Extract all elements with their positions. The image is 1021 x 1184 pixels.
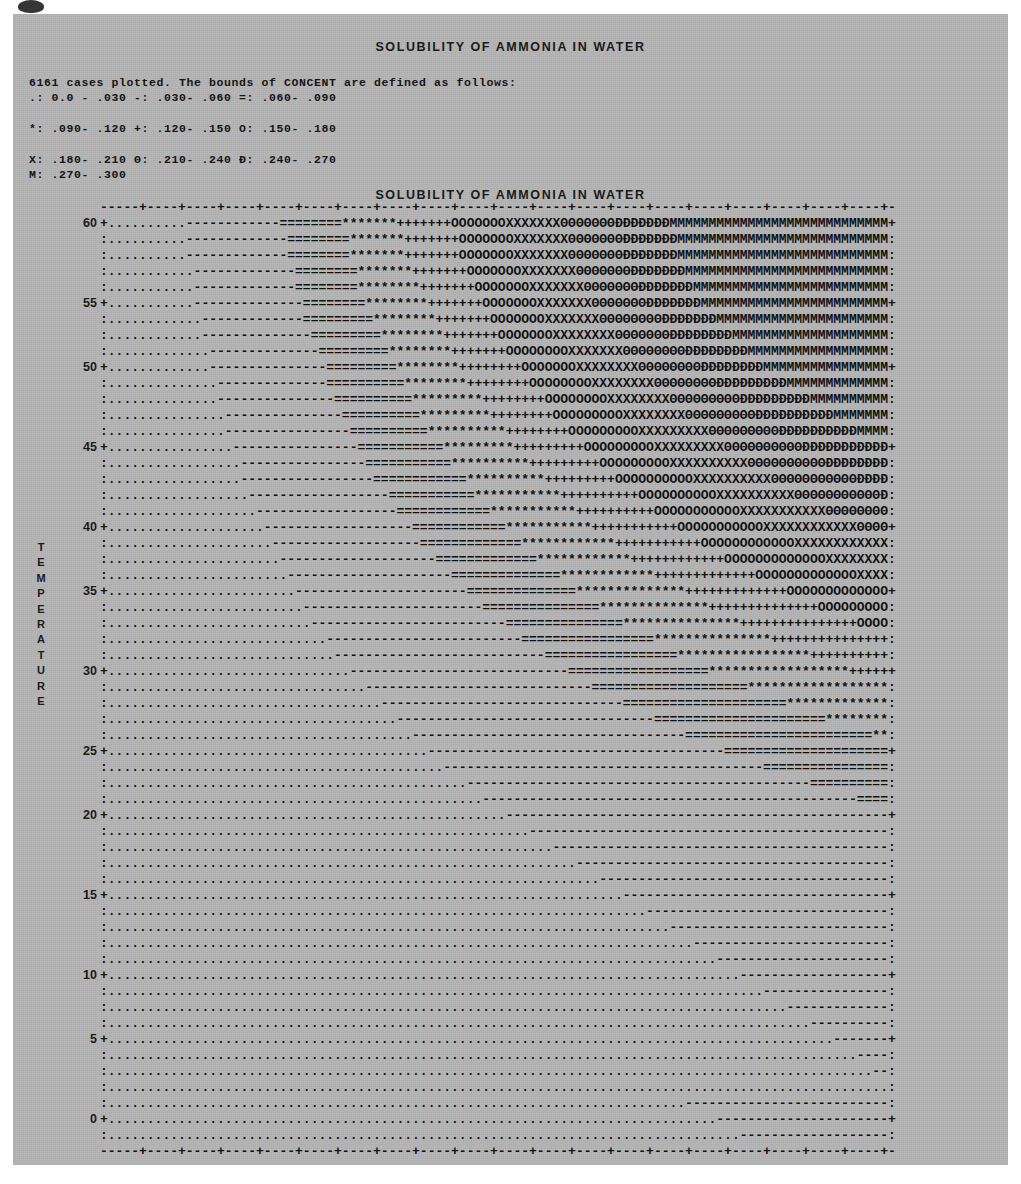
plot-data-row: +....................-------------------… xyxy=(100,520,896,536)
y-axis-label-letter: R xyxy=(33,617,49,632)
y-axis-label-letter: M xyxy=(33,571,49,586)
y-axis-label-letter: U xyxy=(33,663,49,678)
legend-header: 6161 cases plotted. The bounds of CONCEN… xyxy=(29,75,517,90)
plot-data-row: :.................----------------======… xyxy=(100,456,896,472)
x-axis-ticks: 50150250350450550650750850950 xyxy=(100,1162,1005,1165)
plot-data-row: :...............---------------=========… xyxy=(100,408,896,424)
plot-data-row: :.......................................… xyxy=(100,1128,896,1144)
plot-data-row: +.......................................… xyxy=(100,1112,896,1128)
plot-data-row: :.......................................… xyxy=(100,824,896,840)
x-tick-label: 950 xyxy=(931,1162,991,1165)
plot-data-row: :.......................................… xyxy=(100,872,896,888)
x-tick-label: 650 xyxy=(661,1162,721,1165)
plot-data-row: +........................---------------… xyxy=(100,584,896,600)
plot-data-row: :.......................................… xyxy=(100,1096,896,1112)
plot-bottom-border: -----+----+----+----+----+----+----+----… xyxy=(100,1144,896,1160)
ink-smudge-icon xyxy=(18,0,44,13)
plot-data-row: :.........................--------------… xyxy=(100,600,896,616)
plot-data-row: :.......................................… xyxy=(100,984,896,1000)
plot-data-row: +................----------------=======… xyxy=(100,440,896,456)
y-axis-label-letter: T xyxy=(33,540,49,555)
legend-row-2: *: .090- .120 +: .120- .150 O: .150- .18… xyxy=(29,121,517,136)
plot-data-row: :............--------------=========****… xyxy=(100,328,896,344)
plot-data-row: +.......................................… xyxy=(100,1032,896,1048)
y-tick-label: 20 xyxy=(53,807,97,823)
plot-data-row: :.......................................… xyxy=(100,1048,896,1064)
y-tick-label: 55 xyxy=(53,295,97,311)
y-axis-label-letter: R xyxy=(33,679,49,694)
y-axis-label-letter: E xyxy=(33,602,49,617)
scanned-page: SOLUBILITY OF AMMONIA IN WATER 6161 case… xyxy=(13,14,1008,1165)
plot-data-row: :.................-----------------=====… xyxy=(100,472,896,488)
y-tick-label: 50 xyxy=(53,359,97,375)
y-tick-label: 25 xyxy=(53,743,97,759)
plot-data-row: :.......................................… xyxy=(100,856,896,872)
x-tick-label: 250 xyxy=(300,1162,360,1165)
y-axis-label-letter: A xyxy=(33,632,49,647)
plot-data-row: :...........-------------========*******… xyxy=(100,264,896,280)
y-tick-label: 10 xyxy=(53,967,97,983)
plot-data-row: +.......................................… xyxy=(100,744,896,760)
page-title: SOLUBILITY OF AMMONIA IN WATER xyxy=(13,40,1008,54)
plot-data-row: :.....................------------------… xyxy=(100,536,896,552)
y-tick-label: 30 xyxy=(53,663,97,679)
y-axis-label: TEMPERATURE xyxy=(33,540,49,709)
plot-data-row: :.......................................… xyxy=(100,920,896,936)
legend-row-1: .: 0.0 - .030 -: .030- .060 =: .060- .09… xyxy=(29,90,517,105)
plot-data-row: +.......................................… xyxy=(100,808,896,824)
legend-block: 6161 cases plotted. The bounds of CONCEN… xyxy=(29,75,517,182)
x-tick-label: 850 xyxy=(841,1162,901,1165)
plot-data-row: :.............--------------=========***… xyxy=(100,344,896,360)
plot-data-row: :.......................................… xyxy=(100,1080,896,1096)
plot-data-row: :.......................................… xyxy=(100,1064,896,1080)
x-tick-label: 150 xyxy=(210,1162,270,1165)
x-tick-label: 550 xyxy=(571,1162,631,1165)
plot-data-row: :.......................................… xyxy=(100,1016,896,1032)
plot-data-row: :......................-----------------… xyxy=(100,552,896,568)
y-tick-label: 40 xyxy=(53,519,97,535)
plot-data-row: :..........................-------------… xyxy=(100,616,896,632)
x-tick-label: 350 xyxy=(390,1162,450,1165)
plot-data-row: :..........-------------========*******+… xyxy=(100,232,896,248)
y-tick-label: 35 xyxy=(53,583,97,599)
plot-data-row: :.......................................… xyxy=(100,1000,896,1016)
plot-data-row: +..........------------========*******++… xyxy=(100,216,896,232)
plot-data-row: :...........-------------========*******… xyxy=(100,280,896,296)
plot-data-row: :.......................................… xyxy=(100,728,896,744)
plot-data-row: +.......................................… xyxy=(100,968,896,984)
x-tick-label: 450 xyxy=(480,1162,540,1165)
plot-data-row: :.......................................… xyxy=(100,792,896,808)
y-tick-label: 45 xyxy=(53,439,97,455)
plot-data-row: +.............---------------=========**… xyxy=(100,360,896,376)
plot-data-row: :.......................................… xyxy=(100,840,896,856)
plot-data-row: :.......................................… xyxy=(100,936,896,952)
plot-area: TEMPERATURE 605550454035302520151050 ---… xyxy=(13,202,1008,1132)
plot-data-row: :.......................----------------… xyxy=(100,568,896,584)
plot-data-row: :............................-----------… xyxy=(100,632,896,648)
plot-data-row: :...................................----… xyxy=(100,696,896,712)
y-axis-label-letter: T xyxy=(33,648,49,663)
y-axis-label-letter: E xyxy=(33,694,49,709)
plot-data-row: :.................................------… xyxy=(100,680,896,696)
plot-data-row: :.......................................… xyxy=(100,952,896,968)
plot-data-row: :...................------------------==… xyxy=(100,504,896,520)
x-tick-label: 750 xyxy=(751,1162,811,1165)
plot-data-row: :.......................................… xyxy=(100,776,896,792)
y-tick-label: 15 xyxy=(53,887,97,903)
plot-data-row: :.............................----------… xyxy=(100,648,896,664)
plot-data-row: :..............---------------==========… xyxy=(100,392,896,408)
plot-data-row: +...........--------------========******… xyxy=(100,296,896,312)
legend-row-4: M: .270- .300 xyxy=(29,167,517,182)
y-tick-label: 0 xyxy=(53,1111,97,1127)
y-tick-label: 60 xyxy=(53,215,97,231)
plot-data-row: :..........-------------========*******+… xyxy=(100,248,896,264)
plot-data-row: +...............................--------… xyxy=(100,664,896,680)
plot-data-row: :..................------------------===… xyxy=(100,488,896,504)
legend-row-3: X: .180- .210 Θ: .210- .240 Ð: .240- .27… xyxy=(29,152,517,167)
plot-data-row: :.....................................--… xyxy=(100,712,896,728)
x-tick-label: 50 xyxy=(120,1162,180,1165)
plot-data-row: :..............--------------==========*… xyxy=(100,376,896,392)
y-axis-label-letter: E xyxy=(33,555,49,570)
plot-data-row: :.......................................… xyxy=(100,760,896,776)
plot-data-row: :...............----------------========… xyxy=(100,424,896,440)
